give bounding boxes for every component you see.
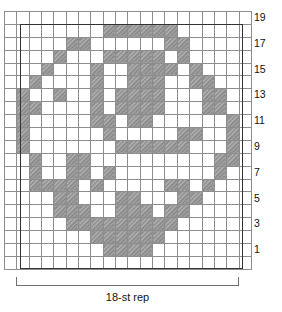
chart-cell-empty[interactable] bbox=[79, 256, 91, 269]
chart-cell-empty[interactable] bbox=[29, 231, 41, 244]
chart-cell-empty[interactable] bbox=[5, 89, 17, 102]
chart-cell-empty[interactable] bbox=[116, 37, 128, 50]
chart-cell-empty[interactable] bbox=[190, 102, 202, 115]
chart-cell-filled[interactable] bbox=[202, 76, 214, 89]
chart-cell-empty[interactable] bbox=[91, 166, 103, 179]
chart-cell-filled[interactable] bbox=[140, 244, 152, 257]
chart-cell-empty[interactable] bbox=[128, 179, 140, 192]
chart-cell-empty[interactable] bbox=[42, 76, 54, 89]
chart-cell-empty[interactable] bbox=[29, 24, 41, 37]
chart-cell-empty[interactable] bbox=[5, 179, 17, 192]
chart-cell-empty[interactable] bbox=[29, 12, 41, 25]
chart-cell-empty[interactable] bbox=[153, 12, 165, 25]
chart-cell-empty[interactable] bbox=[66, 256, 78, 269]
chart-cell-empty[interactable] bbox=[190, 153, 202, 166]
chart-cell-empty[interactable] bbox=[66, 63, 78, 76]
chart-cell-empty[interactable] bbox=[66, 50, 78, 63]
chart-cell-empty[interactable] bbox=[17, 192, 29, 205]
chart-cell-empty[interactable] bbox=[190, 166, 202, 179]
chart-cell-filled[interactable] bbox=[214, 89, 226, 102]
chart-cell-filled[interactable] bbox=[227, 153, 239, 166]
chart-cell-empty[interactable] bbox=[190, 231, 202, 244]
chart-cell-filled[interactable] bbox=[177, 50, 189, 63]
chart-cell-filled[interactable] bbox=[153, 24, 165, 37]
chart-cell-empty[interactable] bbox=[5, 153, 17, 166]
chart-cell-empty[interactable] bbox=[116, 179, 128, 192]
chart-cell-filled[interactable] bbox=[140, 63, 152, 76]
chart-cell-empty[interactable] bbox=[42, 140, 54, 153]
chart-cell-empty[interactable] bbox=[239, 76, 251, 89]
chart-cell-empty[interactable] bbox=[153, 256, 165, 269]
chart-cell-empty[interactable] bbox=[165, 153, 177, 166]
chart-cell-empty[interactable] bbox=[214, 76, 226, 89]
chart-cell-empty[interactable] bbox=[202, 37, 214, 50]
chart-cell-empty[interactable] bbox=[42, 256, 54, 269]
chart-cell-empty[interactable] bbox=[165, 115, 177, 128]
chart-cell-filled[interactable] bbox=[128, 102, 140, 115]
chart-cell-empty[interactable] bbox=[42, 205, 54, 218]
chart-cell-empty[interactable] bbox=[128, 128, 140, 141]
chart-cell-filled[interactable] bbox=[91, 102, 103, 115]
chart-cell-empty[interactable] bbox=[29, 115, 41, 128]
chart-cell-filled[interactable] bbox=[128, 115, 140, 128]
chart-cell-filled[interactable] bbox=[54, 179, 66, 192]
chart-cell-empty[interactable] bbox=[190, 50, 202, 63]
chart-cell-empty[interactable] bbox=[42, 128, 54, 141]
chart-cell-empty[interactable] bbox=[153, 37, 165, 50]
chart-cell-empty[interactable] bbox=[66, 231, 78, 244]
chart-cell-filled[interactable] bbox=[91, 231, 103, 244]
chart-cell-filled[interactable] bbox=[165, 37, 177, 50]
chart-cell-filled[interactable] bbox=[153, 89, 165, 102]
chart-cell-filled[interactable] bbox=[116, 231, 128, 244]
chart-cell-empty[interactable] bbox=[202, 115, 214, 128]
chart-cell-empty[interactable] bbox=[29, 244, 41, 257]
chart-cell-empty[interactable] bbox=[214, 12, 226, 25]
chart-cell-empty[interactable] bbox=[66, 89, 78, 102]
chart-cell-empty[interactable] bbox=[227, 231, 239, 244]
chart-cell-empty[interactable] bbox=[128, 166, 140, 179]
chart-cell-empty[interactable] bbox=[214, 115, 226, 128]
chart-cell-empty[interactable] bbox=[202, 205, 214, 218]
chart-cell-empty[interactable] bbox=[17, 12, 29, 25]
chart-cell-filled[interactable] bbox=[202, 102, 214, 115]
chart-cell-empty[interactable] bbox=[165, 244, 177, 257]
chart-cell-empty[interactable] bbox=[227, 166, 239, 179]
chart-cell-empty[interactable] bbox=[54, 76, 66, 89]
chart-cell-empty[interactable] bbox=[227, 205, 239, 218]
chart-cell-empty[interactable] bbox=[202, 140, 214, 153]
chart-cell-empty[interactable] bbox=[54, 166, 66, 179]
chart-cell-empty[interactable] bbox=[5, 231, 17, 244]
chart-cell-filled[interactable] bbox=[140, 24, 152, 37]
chart-cell-empty[interactable] bbox=[140, 256, 152, 269]
chart-cell-empty[interactable] bbox=[239, 205, 251, 218]
chart-cell-filled[interactable] bbox=[79, 205, 91, 218]
chart-cell-filled[interactable] bbox=[17, 102, 29, 115]
chart-cell-filled[interactable] bbox=[177, 205, 189, 218]
chart-cell-filled[interactable] bbox=[79, 218, 91, 231]
chart-cell-filled[interactable] bbox=[66, 179, 78, 192]
chart-cell-empty[interactable] bbox=[5, 63, 17, 76]
chart-cell-empty[interactable] bbox=[29, 50, 41, 63]
chart-cell-empty[interactable] bbox=[177, 218, 189, 231]
chart-cell-empty[interactable] bbox=[5, 102, 17, 115]
chart-cell-empty[interactable] bbox=[153, 179, 165, 192]
chart-cell-empty[interactable] bbox=[202, 24, 214, 37]
chart-cell-empty[interactable] bbox=[103, 179, 115, 192]
chart-cell-filled[interactable] bbox=[153, 102, 165, 115]
chart-cell-empty[interactable] bbox=[214, 37, 226, 50]
chart-cell-filled[interactable] bbox=[128, 205, 140, 218]
chart-cell-empty[interactable] bbox=[202, 192, 214, 205]
chart-cell-empty[interactable] bbox=[239, 244, 251, 257]
chart-cell-filled[interactable] bbox=[128, 140, 140, 153]
chart-cell-filled[interactable] bbox=[116, 102, 128, 115]
chart-cell-filled[interactable] bbox=[140, 102, 152, 115]
chart-cell-filled[interactable] bbox=[66, 153, 78, 166]
chart-cell-empty[interactable] bbox=[177, 63, 189, 76]
chart-cell-empty[interactable] bbox=[29, 192, 41, 205]
chart-cell-empty[interactable] bbox=[227, 37, 239, 50]
chart-cell-empty[interactable] bbox=[214, 231, 226, 244]
chart-cell-filled[interactable] bbox=[128, 24, 140, 37]
chart-cell-filled[interactable] bbox=[140, 231, 152, 244]
chart-cell-empty[interactable] bbox=[91, 24, 103, 37]
chart-cell-empty[interactable] bbox=[214, 192, 226, 205]
